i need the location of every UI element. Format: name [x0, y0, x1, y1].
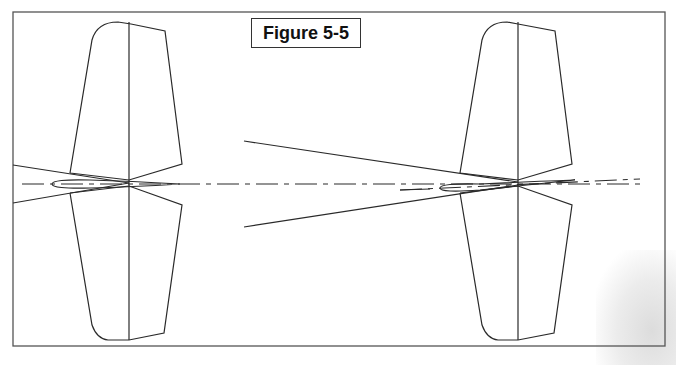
left-upper-fin [70, 22, 182, 180]
figure-frame [13, 12, 665, 346]
figure-title: Figure 5-5 [251, 18, 361, 48]
left-lower-fin [70, 186, 182, 340]
left-tail [13, 22, 182, 340]
right-wedge-lower [244, 185, 518, 227]
figure-5-5-diagram: Figure 5-5 [0, 0, 676, 365]
right-wedge-upper [244, 141, 518, 182]
right-lower-fin [460, 186, 572, 340]
deflected-reference-line [400, 179, 640, 190]
diagram-svg [0, 0, 676, 365]
right-tail [244, 22, 575, 340]
right-upper-fin [460, 22, 572, 180]
